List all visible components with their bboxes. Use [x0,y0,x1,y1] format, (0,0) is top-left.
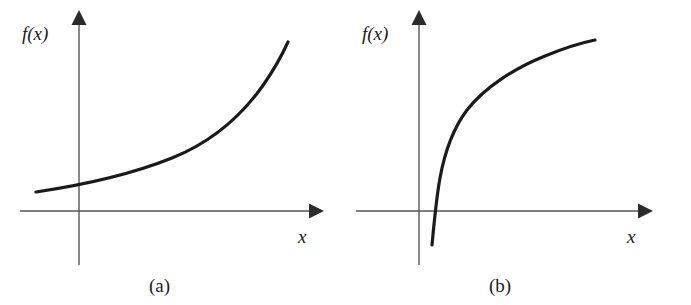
chart-svg-b: f(x) x (b) [345,0,691,305]
y-axis-label-a: f(x) [22,23,48,45]
chart-panel-a: f(x) x (a) [0,0,345,305]
y-axis-label-b: f(x) [362,23,388,45]
chart-panel-b: f(x) x (b) [345,0,690,305]
x-axis-label-b: x [626,226,636,247]
y-axis-arrowhead-icon-a [72,10,87,25]
chart-svg-a: f(x) x (a) [0,0,345,305]
x-axis-arrowhead-icon-a [309,204,324,219]
x-axis-label-a: x [297,226,307,247]
y-axis-arrowhead-icon-b [412,10,427,25]
panel-caption-a: (a) [149,275,170,297]
exponential-curve-a [36,42,288,192]
figure-container: f(x) x (a) f(x) x (b) [0,0,691,305]
x-axis-arrowhead-icon-b [638,204,653,219]
panel-caption-b: (b) [489,275,511,297]
logarithmic-curve-b [432,40,595,245]
